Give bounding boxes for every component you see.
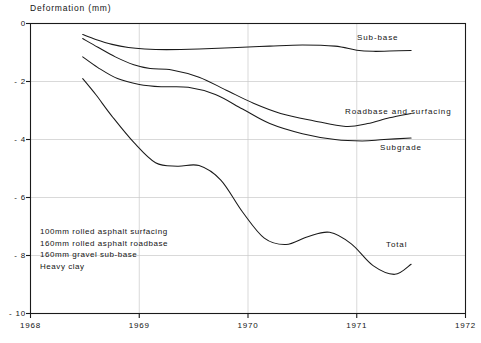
series-label-sub-base: Sub-base (357, 33, 398, 42)
chart-background (0, 0, 481, 343)
x-tick-label-1970: 1970 (232, 321, 264, 330)
y-tick-label-neg10: - 10 (2, 309, 26, 318)
x-tick-label-1972: 1972 (450, 321, 481, 330)
series-label-roadbase-and-surfacing: Roadbase and surfacing (345, 107, 452, 116)
spec-note-line-1: 100mm rolled asphalt surfacing (40, 226, 168, 238)
y-tick-label-neg2: - 2 (2, 77, 26, 86)
x-tick-label-1968: 1968 (15, 321, 47, 330)
series-label-total: Total (386, 240, 407, 249)
chart-figure: Deformation (mm) 0- 2- 4- 6- 8- 10 19681… (0, 0, 481, 343)
series-label-subgrade: Subgrade (380, 143, 422, 152)
x-tick-label-1969: 1969 (123, 321, 155, 330)
spec-note-line-3: 160mm gravel sub-base (40, 249, 168, 261)
spec-note-line-4: Heavy clay (40, 261, 168, 273)
deformation-line-chart (0, 0, 481, 343)
y-axis-label: Deformation (mm) (30, 3, 111, 13)
y-tick-label-neg8: - 8 (2, 251, 26, 260)
y-tick-label-neg4: - 4 (2, 135, 26, 144)
spec-note-block: 100mm rolled asphalt surfacing 160mm rol… (40, 226, 168, 272)
y-tick-label-0: 0 (2, 19, 26, 28)
y-tick-label-neg6: - 6 (2, 193, 26, 202)
spec-note-line-2: 160mm rolled asphalt roadbase (40, 238, 168, 250)
x-tick-label-1971: 1971 (341, 321, 373, 330)
